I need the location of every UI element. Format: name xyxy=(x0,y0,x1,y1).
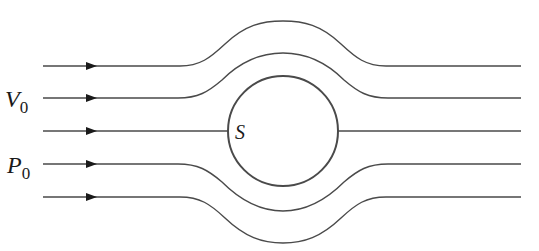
arrow-icon xyxy=(86,62,97,201)
velocity-label: V0 xyxy=(5,86,28,117)
pressure-label: P0 xyxy=(6,152,30,183)
streamline-1 xyxy=(43,21,521,66)
streamline-4 xyxy=(43,164,521,211)
streamline-5 xyxy=(43,197,521,243)
stagnation-point-label: S xyxy=(235,121,245,143)
flow-diagram: V0 P0 S xyxy=(0,0,539,251)
